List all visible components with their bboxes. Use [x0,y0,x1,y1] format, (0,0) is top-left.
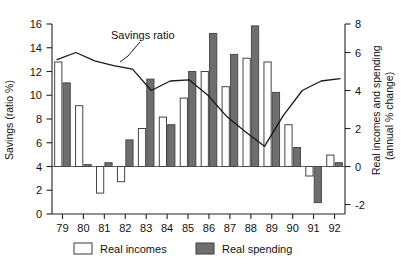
bar-real-spending-92 [335,163,342,167]
bar-real-incomes-81 [97,167,104,194]
left-axis-title: Savings (ratio %) [3,80,15,160]
bar-real-spending-80 [84,165,91,167]
x-label-83: 83 [140,222,152,234]
left-tick-4: 4 [36,161,42,173]
savings-and-spending-chart: 0 2 4 6 8 10 12 14 16 -2 0 2 4 6 8 [0,0,407,270]
x-label-92: 92 [328,222,340,234]
left-tick-16: 16 [30,18,42,30]
bar-real-spending-79 [63,83,70,167]
right-tick-0: 0 [355,161,361,173]
x-label-89: 89 [266,222,278,234]
bar-real-spending-87 [230,54,237,166]
bar-real-incomes-89 [264,62,271,167]
legend-swatch-real-spending [196,243,214,254]
right-axis-title-line2: (annual % change) [383,72,395,160]
right-tick-4: 4 [355,85,361,97]
x-label-79: 79 [56,222,68,234]
bar-real-spending-89 [272,92,279,166]
right-tick-neg2: -2 [355,199,365,211]
bar-real-incomes-84 [159,117,166,166]
left-tick-2: 2 [36,184,42,196]
bar-real-incomes-86 [201,72,208,167]
bar-real-incomes-79 [55,62,62,167]
bar-real-spending-83 [147,79,154,166]
left-tick-6: 6 [36,137,42,149]
legend-label-real-incomes: Real incomes [100,243,167,255]
x-label-87: 87 [224,222,236,234]
bar-real-incomes-92 [327,155,334,166]
left-tick-12: 12 [30,66,42,78]
bar-real-spending-90 [293,148,300,167]
x-label-90: 90 [287,222,299,234]
right-axis-title-line1: Real incomes and spending [370,45,382,175]
bar-real-incomes-90 [285,125,292,167]
left-tick-8: 8 [36,113,42,125]
legend-label-real-spending: Real spending [222,243,292,255]
bar-real-incomes-83 [138,129,145,167]
legend-swatch-real-incomes [74,243,92,254]
left-tick-14: 14 [30,42,42,54]
left-tick-10: 10 [30,89,42,101]
bar-real-spending-88 [251,26,258,167]
right-tick-8: 8 [355,18,361,30]
x-label-81: 81 [98,222,110,234]
bar-real-spending-82 [126,140,133,167]
bar-real-spending-84 [168,125,175,167]
bar-real-spending-81 [105,163,112,167]
bar-real-spending-86 [210,34,217,167]
left-tick-0: 0 [36,208,42,220]
right-tick-6: 6 [355,47,361,59]
x-label-84: 84 [161,222,173,234]
bar-real-incomes-91 [306,167,313,177]
chart-container: 0 2 4 6 8 10 12 14 16 -2 0 2 4 6 8 [0,0,407,270]
x-label-85: 85 [182,222,194,234]
bar-real-incomes-88 [243,58,250,166]
bar-real-incomes-85 [180,98,187,166]
bar-real-incomes-82 [117,167,124,182]
bar-real-spending-91 [314,167,321,203]
x-label-91: 91 [307,222,319,234]
x-label-88: 88 [245,222,257,234]
bar-real-incomes-87 [222,87,229,167]
x-label-82: 82 [119,222,131,234]
savings-ratio-annotation: Savings ratio [111,29,175,41]
x-label-86: 86 [203,222,215,234]
right-tick-2: 2 [355,123,361,135]
bar-real-spending-85 [189,72,196,167]
bar-real-incomes-80 [76,106,83,167]
x-label-80: 80 [77,222,89,234]
